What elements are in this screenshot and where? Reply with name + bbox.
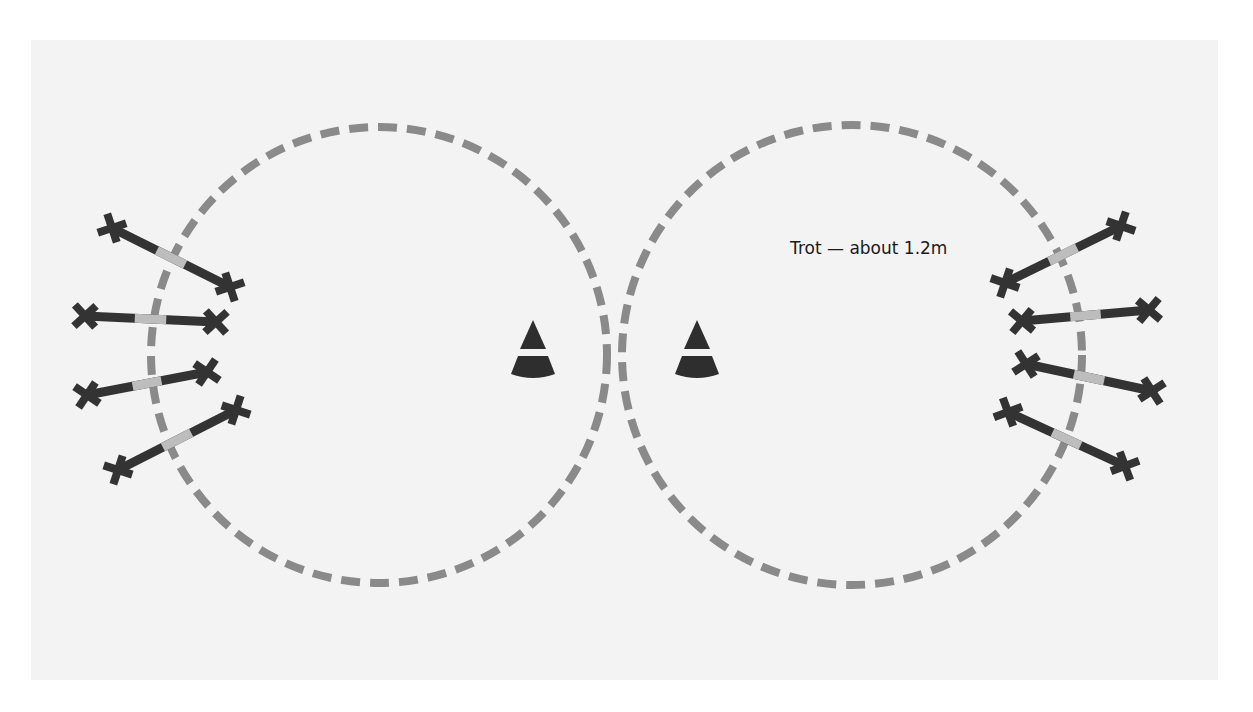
exercise-diagram: Trot — about 1.2m [0, 0, 1253, 712]
annotation-label: Trot — about 1.2m [789, 238, 947, 258]
arena-background [31, 40, 1218, 680]
